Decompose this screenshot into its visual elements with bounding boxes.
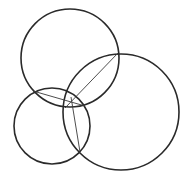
left-circle — [14, 88, 90, 164]
right-circle — [63, 54, 179, 170]
circles-group — [14, 9, 179, 170]
chords-group — [33, 53, 118, 152]
three-circles-diagram — [0, 0, 189, 194]
